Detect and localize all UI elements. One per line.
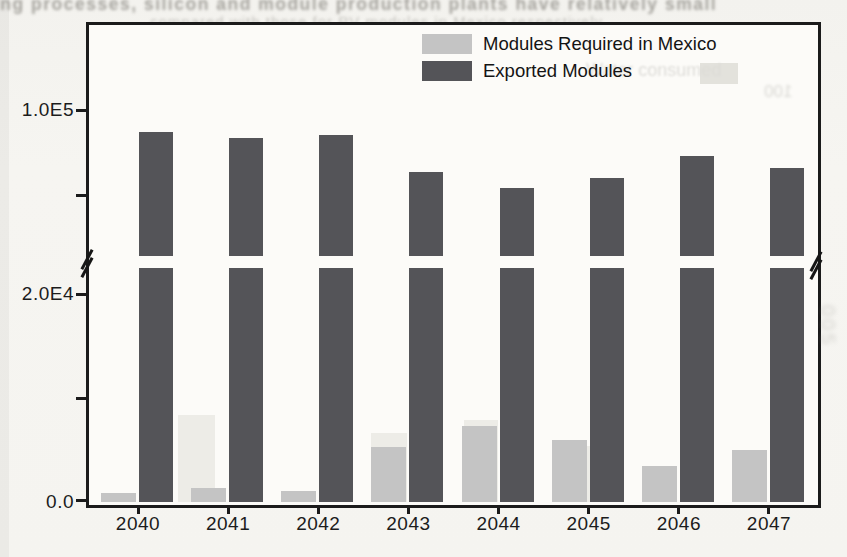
chart-legend: Modules Required in Mexico Exported Modu…	[422, 33, 716, 87]
required-bar-2046	[642, 466, 677, 502]
exported-bar-2044-upper	[500, 188, 534, 256]
exported-bar-2045-upper	[590, 178, 624, 256]
legend-entry-exported: Exported Modules	[422, 60, 716, 81]
x-tick-label-2043: 2043	[373, 513, 443, 535]
exported-bar-2040-upper	[139, 132, 173, 256]
required-bar-2045	[552, 440, 587, 502]
y-tick-label-1.0E5: 1.0E5	[6, 99, 74, 121]
legend-label-exported: Exported Modules	[483, 60, 632, 82]
exported-bar-2043-upper	[409, 172, 443, 256]
legend-swatch-required	[422, 34, 472, 54]
y-tick-0	[76, 499, 86, 502]
exported-bar-2044-lower	[500, 268, 534, 502]
exported-bar-2041-upper	[229, 138, 263, 256]
exported-bar-2047-upper	[770, 168, 804, 256]
exported-bar-2043-lower	[409, 268, 443, 502]
x-tick-label-2041: 2041	[193, 513, 263, 535]
required-bar-2044	[462, 426, 497, 502]
x-tick-label-2046: 2046	[644, 513, 714, 535]
required-bar-2042	[281, 491, 316, 502]
required-bar-2047	[732, 450, 767, 502]
x-tick-label-2040: 2040	[103, 513, 173, 535]
y-tick-20000	[76, 293, 86, 296]
page-edge-shadow	[0, 0, 9, 557]
x-tick-label-2045: 2045	[554, 513, 624, 535]
legend-swatch-exported	[422, 61, 472, 81]
x-tick-label-2044: 2044	[464, 513, 534, 535]
x-tick-label-2042: 2042	[283, 513, 353, 535]
bleed-ghost-side-text: 005	[816, 305, 839, 347]
exported-bar-2042-lower	[319, 268, 353, 502]
bleed-ghost-number: 100	[764, 82, 792, 102]
required-bar-2040	[101, 493, 136, 502]
exported-bar-2041-lower	[229, 268, 263, 502]
exported-bar-2046-lower	[680, 268, 714, 502]
scanned-figure-page: ing processes, silicon and module produc…	[0, 0, 847, 557]
exported-bar-2042-upper	[319, 135, 353, 256]
y-tick-10000	[76, 397, 86, 400]
bleed-text-artifact-1: ing processes, silicon and module produc…	[0, 0, 717, 15]
exported-bar-2047-lower	[770, 268, 804, 502]
x-tick-label-2047: 2047	[734, 513, 804, 535]
exported-bar-2040-lower	[139, 268, 173, 502]
required-bar-2041	[191, 488, 226, 502]
exported-bar-2046-upper	[680, 156, 714, 256]
exported-bar-2045-lower	[590, 268, 624, 502]
required-bar-2043	[371, 447, 406, 502]
legend-label-required: Modules Required in Mexico	[483, 33, 716, 55]
y-tick-100000	[76, 109, 86, 112]
y-tick-90000	[76, 194, 86, 197]
y-tick-label-0.0: 0.0	[6, 491, 74, 513]
legend-entry-required: Modules Required in Mexico	[422, 33, 716, 54]
y-tick-label-2.0E4: 2.0E4	[6, 283, 74, 305]
